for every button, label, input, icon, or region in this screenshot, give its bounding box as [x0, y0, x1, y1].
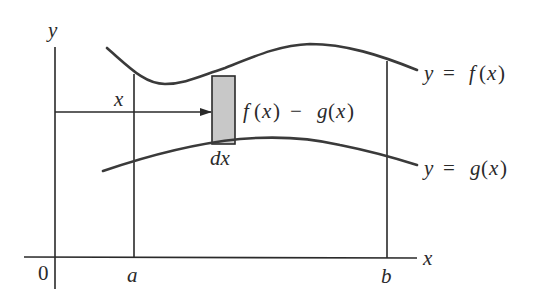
svg-text:g: g — [470, 156, 481, 180]
b-label: b — [381, 264, 392, 288]
svg-text:(: ( — [481, 156, 488, 180]
svg-text:x: x — [261, 99, 272, 123]
x-position-label: x — [113, 87, 124, 111]
a-label: a — [127, 263, 138, 287]
svg-text:g: g — [317, 99, 328, 123]
y-axis-label: y — [46, 18, 58, 42]
svg-text:−: − — [290, 99, 302, 123]
svg-text:): ) — [500, 156, 507, 180]
svg-text:): ) — [498, 61, 505, 85]
svg-text:f: f — [469, 61, 478, 85]
strip-height-label: f ( x ) − g ( x ) — [243, 99, 354, 123]
svg-text:): ) — [273, 99, 280, 123]
svg-text:(: ( — [479, 61, 486, 85]
origin-label: 0 — [38, 261, 49, 285]
svg-text:=: = — [443, 61, 455, 85]
svg-text:): ) — [347, 99, 354, 123]
x-axis — [24, 257, 417, 258]
strip-rectangle — [212, 76, 235, 144]
svg-text:f: f — [243, 99, 252, 123]
curve-g-label: y = g ( x ) — [422, 156, 507, 180]
svg-text:y: y — [422, 156, 434, 180]
curve-f-label: y = f ( x ) — [422, 61, 505, 85]
svg-text:x: x — [486, 61, 497, 85]
svg-text:(: ( — [254, 99, 261, 123]
svg-text:x: x — [335, 99, 346, 123]
svg-text:(: ( — [328, 99, 335, 123]
area-between-curves-diagram: y x 0 a b x dx f ( x ) − g ( x ) y = f (… — [0, 0, 537, 305]
curve-f — [107, 44, 417, 84]
svg-text:y: y — [422, 61, 434, 85]
curve-g — [103, 138, 417, 171]
svg-text:x: x — [488, 156, 499, 180]
dx-label: dx — [210, 146, 231, 170]
x-axis-label: x — [422, 246, 433, 270]
svg-text:=: = — [443, 156, 455, 180]
